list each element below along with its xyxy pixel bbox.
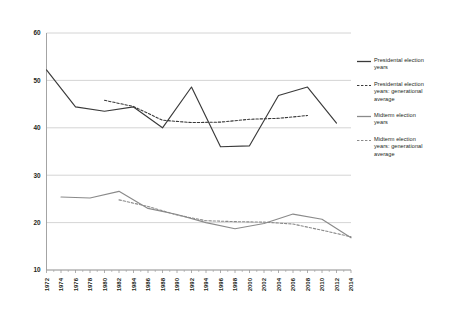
x-tick-label: 1980 (102, 277, 108, 291)
legend-item[interactable]: Presidental election years: generational… (357, 81, 461, 103)
x-tick-label: 2014 (348, 277, 354, 291)
x-tick-label: 1982 (116, 277, 122, 291)
x-tick-label: 1998 (232, 277, 238, 291)
gridlines-group (47, 33, 352, 270)
legend-item-label: Presidental election years (374, 57, 424, 72)
x-tick-label: 1996 (218, 277, 224, 291)
chart-container: 102030405060 197219741976197819801982198… (0, 0, 461, 315)
x-tick-label: 1992 (189, 277, 195, 291)
y-tick-label: 60 (33, 29, 41, 36)
x-tick-label: 1986 (145, 277, 151, 291)
y-tick-label: 50 (33, 77, 41, 84)
x-tick-label: 2000 (247, 277, 253, 291)
x-tick-label: 1976 (73, 277, 79, 291)
x-tick-label: 2002 (261, 277, 267, 291)
x-tick-label: 1972 (44, 277, 50, 291)
legend-line-swatch-icon (357, 136, 371, 145)
x-tick-label: 1990 (174, 277, 180, 291)
x-tick-label: 1988 (160, 277, 166, 291)
axis-lines (47, 33, 352, 270)
y-tick-label: 40 (33, 124, 41, 131)
y-tick-label: 30 (33, 172, 41, 179)
x-tick-label: 2012 (334, 277, 340, 291)
legend-item-label: Presidental election years: generational… (374, 81, 424, 103)
x-tick-label: 2008 (305, 277, 311, 291)
series-line-0 (47, 70, 337, 147)
legend-item[interactable]: Midterm election years: generational ave… (357, 136, 461, 158)
legend-item[interactable]: Midterm election years (357, 112, 461, 127)
x-axis-tick-labels: 1972197419761978198019821984198619881990… (44, 277, 355, 291)
legend-item-label: Midterm election years (374, 112, 416, 127)
legend-item-label: Midterm election years: generational ave… (374, 136, 423, 158)
x-axis-tick-marks (47, 270, 352, 273)
data-series-group (47, 70, 352, 238)
legend-line-swatch-icon (357, 81, 371, 90)
y-axis-tick-labels: 102030405060 (33, 29, 41, 273)
legend-line-swatch-icon (357, 57, 371, 66)
chart-legend: Presidental election yearsPresidental el… (357, 57, 461, 167)
x-tick-label: 2006 (290, 277, 296, 291)
series-line-1 (105, 100, 308, 122)
y-tick-label: 10 (33, 266, 41, 273)
y-tick-label: 20 (33, 219, 41, 226)
x-tick-label: 1978 (87, 277, 93, 291)
legend-line-swatch-icon (357, 112, 371, 121)
x-tick-label: 2004 (276, 277, 282, 291)
x-tick-label: 2010 (319, 277, 325, 291)
series-line-2 (61, 191, 351, 237)
x-tick-label: 1994 (203, 277, 209, 291)
x-tick-label: 1984 (131, 277, 137, 291)
legend-item[interactable]: Presidental election years (357, 57, 461, 72)
x-tick-label: 1974 (58, 277, 64, 291)
